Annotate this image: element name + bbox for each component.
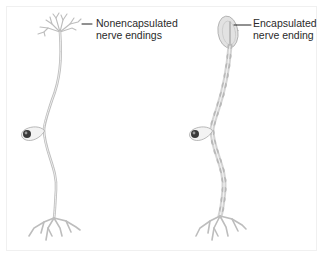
- axon-terminals-right: [196, 216, 246, 240]
- label-line-1: Nonencapsulated: [96, 17, 178, 29]
- left-neuron: [22, 13, 93, 240]
- cell-body-right: [190, 127, 213, 141]
- axon-terminals-left: [29, 218, 80, 240]
- axon: [44, 32, 61, 218]
- label-nonencapsulated: Nonencapsulated nerve endings: [96, 17, 178, 41]
- cell-body-left: [22, 127, 45, 141]
- label-line-2: nerve endings: [96, 29, 178, 41]
- right-neuron: [190, 15, 252, 240]
- encapsulated-ending-icon: [216, 15, 240, 49]
- label-encapsulated: Encapsulated nerve ending: [253, 17, 317, 41]
- label-line-1: Encapsulated: [253, 17, 317, 29]
- label-line-2: nerve ending: [253, 29, 317, 41]
